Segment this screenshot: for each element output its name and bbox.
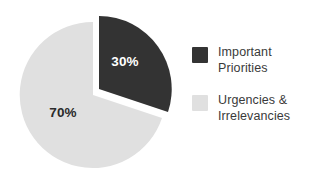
slice-label-important: 30%: [111, 54, 139, 69]
legend-item-urgencies[interactable]: Urgencies & Irrelevancies: [192, 92, 328, 124]
slice-label-urgencies: 70%: [49, 105, 77, 120]
pie-svg: 30% 70%: [0, 0, 185, 176]
legend-swatch-urgencies: [192, 95, 208, 111]
pie-graphic: 30% 70%: [0, 0, 185, 176]
pie-chart: 30% 70% Important Priorities Urgencies &…: [0, 0, 328, 176]
legend-label-important: Important Priorities: [218, 44, 272, 76]
legend: Important Priorities Urgencies & Irrelev…: [192, 44, 328, 124]
legend-swatch-important: [192, 47, 208, 63]
legend-label-urgencies: Urgencies & Irrelevancies: [218, 92, 290, 124]
legend-item-important[interactable]: Important Priorities: [192, 44, 328, 76]
